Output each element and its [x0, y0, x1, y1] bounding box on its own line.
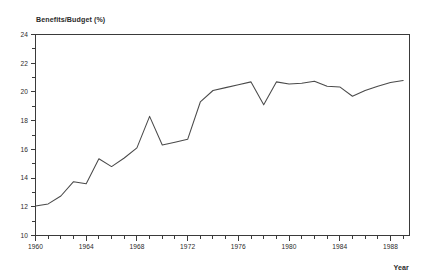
y-tick-label: 16: [20, 146, 28, 153]
x-tick-label: 1964: [79, 243, 94, 250]
y-tick-label: 14: [20, 174, 28, 181]
y-tick-label: 18: [20, 117, 28, 124]
chart-figure: Benefits/Budget (%) 1012141618202224 196…: [0, 0, 423, 277]
x-axis-title: Year: [394, 264, 410, 272]
x-tick-label: 1960: [28, 243, 43, 250]
x-tick-label: 1968: [129, 243, 144, 250]
x-tick-label: 1984: [332, 243, 347, 250]
x-tick-label: 1972: [180, 243, 195, 250]
y-tick-label: 22: [20, 60, 28, 67]
y-tick-label: 24: [20, 31, 28, 38]
y-tick-label: 10: [20, 232, 28, 239]
x-tick-label: 1988: [383, 243, 398, 250]
line-chart: Benefits/Budget (%) 1012141618202224 196…: [0, 0, 423, 277]
x-tick-label: 1976: [231, 243, 246, 250]
y-axis-title: Benefits/Budget (%): [36, 16, 106, 24]
y-tick-label: 12: [20, 203, 28, 210]
y-tick-label: 20: [20, 88, 28, 95]
x-tick-label: 1980: [282, 243, 297, 250]
